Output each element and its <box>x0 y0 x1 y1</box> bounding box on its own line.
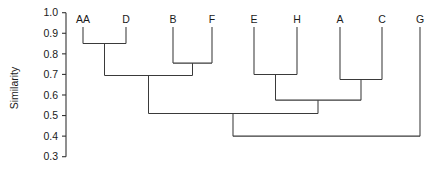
leaf-label-b: B <box>169 13 176 25</box>
y-axis-title: Similarity <box>8 66 20 109</box>
y-axis-tick-label: 1.0 <box>43 6 58 18</box>
leaf-label-a: A <box>336 13 343 25</box>
leaf-label-g: G <box>416 13 424 25</box>
y-axis-tick-label: 0.8 <box>43 48 58 60</box>
y-axis-tick-label: 0.4 <box>43 130 58 142</box>
y-axis-tick-label: 0.7 <box>43 68 58 80</box>
y-axis <box>62 13 66 157</box>
leaf-label-h: H <box>293 13 301 25</box>
y-axis-tick-labels: 1.00.90.80.70.60.50.40.3 <box>43 6 58 162</box>
y-axis-tick-label: 0.9 <box>43 27 58 39</box>
y-axis-tick-label: 0.5 <box>43 109 58 121</box>
leaf-label-d: D <box>122 13 130 25</box>
dendrogram-links <box>83 27 420 136</box>
y-axis-tick-label: 0.6 <box>43 89 58 101</box>
leaf-label-c: C <box>378 13 386 25</box>
dendrogram-figure: 1.00.90.80.70.60.50.40.3 AADBFEHACG Simi… <box>0 0 445 175</box>
y-axis-tick-label: 0.3 <box>43 150 58 162</box>
leaf-label-e: E <box>250 13 257 25</box>
leaf-label-aa: AA <box>76 13 90 25</box>
dendrogram-plot: 1.00.90.80.70.60.50.40.3 AADBFEHACG Simi… <box>0 0 445 175</box>
leaf-labels: AADBFEHACG <box>76 13 424 25</box>
leaf-label-f: F <box>209 13 215 25</box>
